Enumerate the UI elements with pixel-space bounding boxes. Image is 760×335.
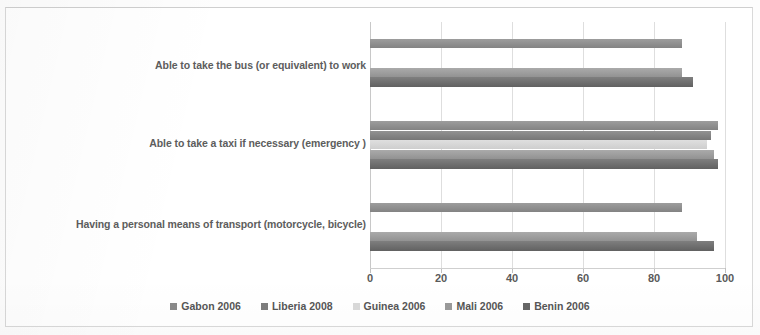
- x-axis-line: [370, 268, 725, 269]
- category-label-bus: Able to take the bus (or equivalent) to …: [155, 60, 366, 71]
- x-tick-label-80: 80: [634, 272, 674, 284]
- x-tick-label-20: 20: [421, 272, 461, 284]
- bar-2-0: [370, 203, 682, 212]
- bar-2-4: [370, 241, 714, 250]
- legend-swatch-icon: [445, 303, 452, 310]
- plot-area: [370, 22, 725, 268]
- bar-chart: Able to take the bus (or equivalent) to …: [0, 0, 760, 335]
- bar-1-4: [370, 159, 718, 168]
- x-tick-label-0: 0: [350, 272, 390, 284]
- category-label-taxi: Able to take a taxi if necessary (emerge…: [149, 138, 366, 149]
- legend-item-liberia-2008[interactable]: Liberia 2008: [261, 300, 333, 312]
- legend-swatch-icon: [353, 303, 360, 310]
- legend-label: Mali 2006: [456, 300, 503, 312]
- bar-0-3: [370, 68, 682, 77]
- legend-label: Gabon 2006: [181, 300, 241, 312]
- legend-swatch-icon: [261, 303, 268, 310]
- legend-label: Guinea 2006: [364, 300, 426, 312]
- legend-item-gabon-2006[interactable]: Gabon 2006: [170, 300, 241, 312]
- bar-1-1: [370, 131, 711, 140]
- bar-1-3: [370, 150, 714, 159]
- legend-label: Benin 2006: [534, 300, 589, 312]
- legend-item-benin-2006[interactable]: Benin 2006: [523, 300, 589, 312]
- x-tick-label-40: 40: [492, 272, 532, 284]
- bar-1-2: [370, 140, 707, 149]
- gridline-100: [725, 22, 726, 268]
- legend-item-guinea-2006[interactable]: Guinea 2006: [353, 300, 426, 312]
- x-tick-label-100: 100: [705, 272, 745, 284]
- bar-0-0: [370, 39, 682, 48]
- legend-swatch-icon: [523, 303, 530, 310]
- legend-swatch-icon: [170, 303, 177, 310]
- bar-1-0: [370, 121, 718, 130]
- scanned-page: Able to take the bus (or equivalent) to …: [0, 0, 760, 335]
- category-label-personal-transport: Having a personal means of transport (mo…: [76, 219, 366, 230]
- legend-item-mali-2006[interactable]: Mali 2006: [445, 300, 503, 312]
- chart-legend: Gabon 2006Liberia 2008Guinea 2006Mali 20…: [0, 300, 760, 312]
- legend-label: Liberia 2008: [272, 300, 333, 312]
- bar-2-3: [370, 232, 697, 241]
- x-tick-label-60: 60: [563, 272, 603, 284]
- bar-0-4: [370, 77, 693, 86]
